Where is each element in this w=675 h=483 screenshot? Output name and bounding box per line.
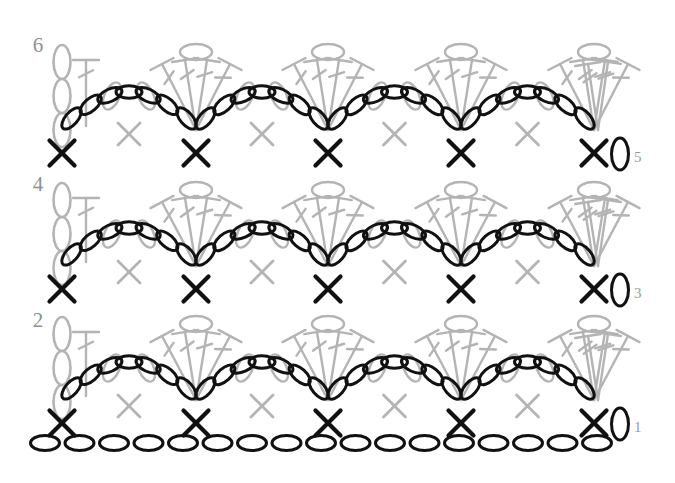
crochet-chart-root: 642531 [0, 0, 675, 483]
row-label-right: 5 [634, 149, 642, 165]
row-label-right: 1 [634, 419, 642, 435]
row-label-left: 2 [33, 308, 44, 332]
crochet-stitch-diagram: 642531 [0, 0, 675, 483]
row-label-right: 3 [634, 285, 642, 301]
row-label-left: 6 [33, 33, 44, 57]
row-label-left: 4 [33, 172, 44, 196]
